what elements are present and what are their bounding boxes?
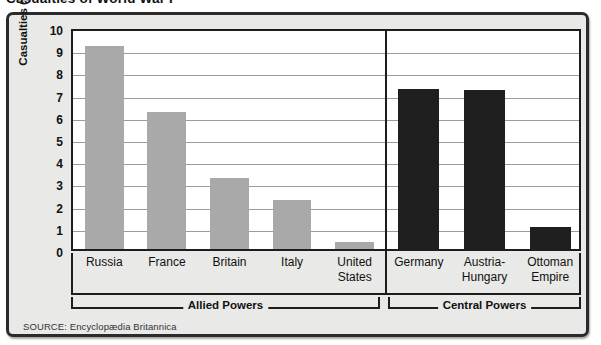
label-line-1: Italy	[261, 255, 324, 270]
category-label-russia: Russia	[73, 255, 136, 270]
label-line-1: Ottoman	[517, 255, 583, 270]
y-tick-1: 1	[39, 225, 63, 237]
label-line-1: Russia	[73, 255, 136, 270]
bar-russia	[85, 46, 124, 249]
label-line-2: Hungary	[452, 270, 518, 285]
group-bracket-central-powers: Central Powers	[388, 297, 581, 313]
plot-inner	[73, 31, 579, 249]
gridline-9	[73, 53, 579, 54]
bar-austria-hungary	[464, 90, 505, 249]
bar-britain	[210, 178, 249, 249]
label-line-2: Empire	[517, 270, 583, 285]
gridline-8	[73, 75, 579, 76]
y-tick-7: 7	[39, 92, 63, 104]
y-tick-5: 5	[39, 136, 63, 148]
y-tick-8: 8	[39, 69, 63, 81]
category-label-germany: Germany	[386, 255, 452, 270]
group-bracket-allied-powers: Allied Powers	[71, 297, 380, 313]
y-tick-2: 2	[39, 203, 63, 215]
bar-france	[147, 112, 186, 249]
source-note: SOURCE: Encyclopædia Britannica	[23, 321, 177, 332]
chart-figure: Casualties of World War I Casualties (in…	[0, 0, 601, 345]
y-tick-3: 3	[39, 180, 63, 192]
y-tick-10: 10	[39, 25, 63, 37]
label-line-1: United	[323, 255, 386, 270]
category-label-united-states: UnitedStates	[323, 255, 386, 285]
bar-ottoman-empire	[530, 227, 571, 249]
label-line-1: Austria-	[452, 255, 518, 270]
label-line-1: Britain	[198, 255, 261, 270]
y-axis-title-wrap: Casualties (in millions)	[19, 45, 39, 265]
y-axis-tick-labels: 109876543210	[39, 29, 63, 265]
y-axis-title: Casualties (in millions)	[17, 0, 35, 93]
bar-italy	[273, 200, 312, 249]
bar-germany	[398, 89, 439, 249]
group-bracket-row: Allied PowersCentral Powers	[71, 297, 581, 319]
y-tick-6: 6	[39, 114, 63, 126]
y-tick-9: 9	[39, 47, 63, 59]
category-label-band: RussiaFranceBritainItalyUnitedStatesGerm…	[71, 253, 581, 295]
y-tick-4: 4	[39, 158, 63, 170]
label-line-1: France	[136, 255, 199, 270]
category-label-britain: Britain	[198, 255, 261, 270]
category-label-france: France	[136, 255, 199, 270]
group-divider	[385, 29, 388, 251]
category-label-ottoman-empire: OttomanEmpire	[517, 255, 583, 285]
label-line-1: Germany	[386, 255, 452, 270]
chart-card: Casualties (in millions) 109876543210 Ru…	[6, 12, 589, 337]
category-label-italy: Italy	[261, 255, 324, 270]
label-line-2: States	[323, 270, 386, 285]
group-label: Central Powers	[438, 299, 532, 311]
y-tick-0: 0	[39, 247, 63, 259]
plot-area	[71, 29, 581, 251]
bar-united-states	[335, 242, 374, 249]
category-band-divider	[385, 251, 388, 295]
group-label: Allied Powers	[183, 299, 268, 311]
category-label-austria-hungary: Austria-Hungary	[452, 255, 518, 285]
